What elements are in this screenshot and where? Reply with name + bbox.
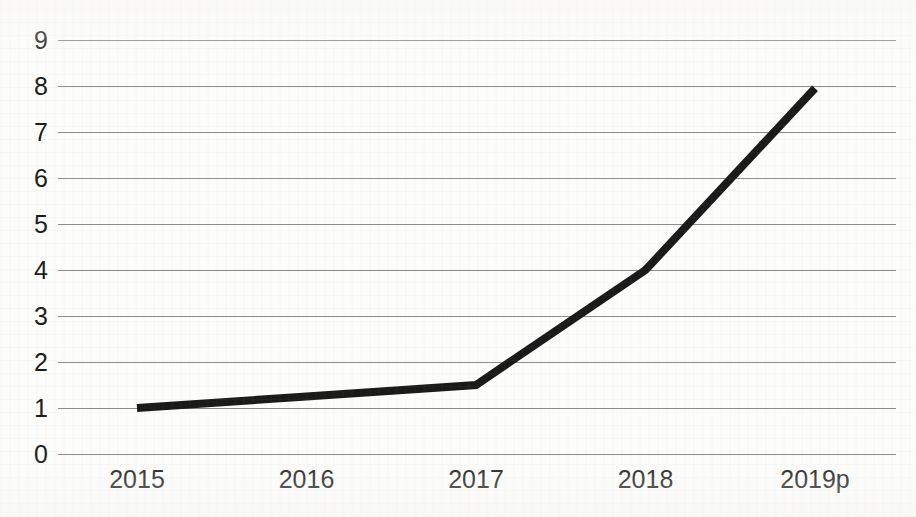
x-tick-label: 2016 bbox=[247, 467, 367, 492]
x-tick-label: 2018 bbox=[586, 467, 706, 492]
x-tick-label: 2017 bbox=[416, 467, 536, 492]
x-axis: 20152016201720182019p bbox=[0, 0, 916, 517]
x-tick-label: 2015 bbox=[77, 467, 197, 492]
x-tick-label: 2019p bbox=[755, 467, 875, 492]
chart-screenshot: 0123456789 20152016201720182019p bbox=[0, 0, 916, 517]
